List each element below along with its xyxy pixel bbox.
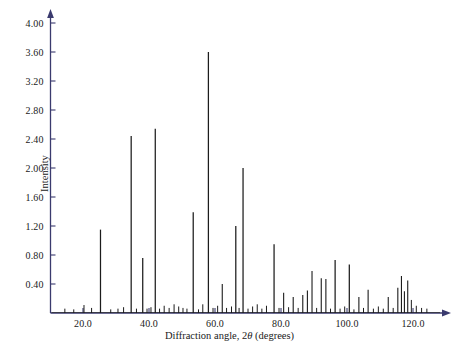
y-tick-label: 1.60 <box>0 192 44 203</box>
x-tick-label: 100.0 <box>336 318 359 329</box>
x-axis-title-prefix: Diffraction angle, 2 <box>165 330 247 341</box>
y-axis-title: Intensity <box>39 114 50 234</box>
xrd-chart: 0.400.801.201.602.002.402.803.203.604.00… <box>0 0 459 352</box>
x-tick-label: 80.0 <box>272 318 290 329</box>
axis-lines <box>47 9 451 316</box>
x-tick-label: 60.0 <box>206 318 224 329</box>
x-tick-label: 20.0 <box>74 318 92 329</box>
x-tick-label: 40.0 <box>140 318 158 329</box>
y-tick-label: 2.40 <box>0 134 44 145</box>
x-axis-title: Diffraction angle, 2θ (degrees) <box>0 330 459 341</box>
y-tick-label: 3.60 <box>0 47 44 58</box>
x-axis-title-units: (degrees) <box>255 330 294 341</box>
y-tick-label: 2.00 <box>0 163 44 174</box>
y-tick-label: 4.00 <box>0 18 44 29</box>
y-tick-label: 1.20 <box>0 221 44 232</box>
x-tick-label: 120.0 <box>402 318 425 329</box>
y-tick-label: 2.80 <box>0 105 44 116</box>
y-tick-label: 3.20 <box>0 76 44 87</box>
plot-area <box>0 0 459 352</box>
axis-ticks <box>51 23 414 313</box>
y-tick-label: 0.40 <box>0 279 44 290</box>
y-tick-label: 0.80 <box>0 250 44 261</box>
diffraction-peaks <box>52 52 441 313</box>
